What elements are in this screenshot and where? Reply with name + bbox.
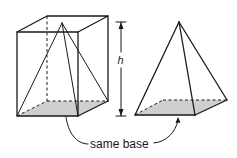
right-pointer-arrowhead [176, 117, 181, 123]
prism-pyramid-diagram: h same base [0, 0, 237, 158]
arrow-up-icon [119, 22, 124, 29]
arrow-down-icon [119, 109, 124, 116]
base-caption: same base [90, 137, 149, 151]
right-pointer-curve [154, 120, 178, 143]
height-label: h [118, 54, 124, 66]
left-pointer-curve [66, 117, 88, 144]
height-dimension: h [116, 22, 126, 116]
prism-with-pyramid [17, 16, 108, 116]
pyramid-base-shading [135, 100, 227, 115]
base-caption-group: same base [66, 117, 181, 151]
pyramid [135, 22, 227, 115]
